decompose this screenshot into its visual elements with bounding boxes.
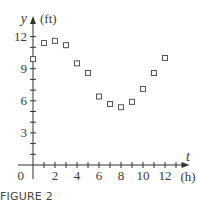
y-axis-unit: (ft) [40, 11, 57, 26]
y-axis-arrow-icon [30, 16, 36, 24]
x-tick-label: 12 [159, 168, 172, 183]
data-point [163, 56, 168, 61]
data-point [141, 87, 146, 92]
data-point [64, 43, 69, 48]
x-tick-label: 2 [52, 168, 59, 183]
scatter-chart: 24681012369120y(ft)t(h) [0, 0, 198, 190]
x-tick-label: 10 [137, 168, 150, 183]
data-points [31, 38, 168, 109]
axis-labels: 24681012369120y(ft)t(h) [14, 11, 196, 184]
data-point [53, 38, 58, 43]
data-point [75, 61, 80, 66]
data-point [31, 57, 36, 62]
y-tick-label: 3 [21, 125, 28, 140]
data-point [152, 70, 157, 75]
x-axis-label: t [186, 149, 191, 164]
data-point [86, 70, 91, 75]
x-tick-label: 4 [74, 168, 81, 183]
y-tick-label: 9 [21, 61, 28, 76]
x-axis-unit: (h) [180, 169, 195, 184]
data-point [130, 99, 135, 104]
origin-label: 0 [18, 168, 25, 183]
data-point [42, 41, 47, 46]
data-point [97, 94, 102, 99]
figure-caption: FIGURE 2 [0, 190, 53, 203]
x-tick-label: 6 [96, 168, 103, 183]
y-tick-label: 12 [14, 29, 27, 44]
data-point [108, 102, 113, 107]
y-tick-label: 6 [21, 93, 28, 108]
data-point [119, 105, 124, 110]
x-tick-label: 8 [118, 168, 125, 183]
y-axis-label: y [19, 11, 28, 26]
